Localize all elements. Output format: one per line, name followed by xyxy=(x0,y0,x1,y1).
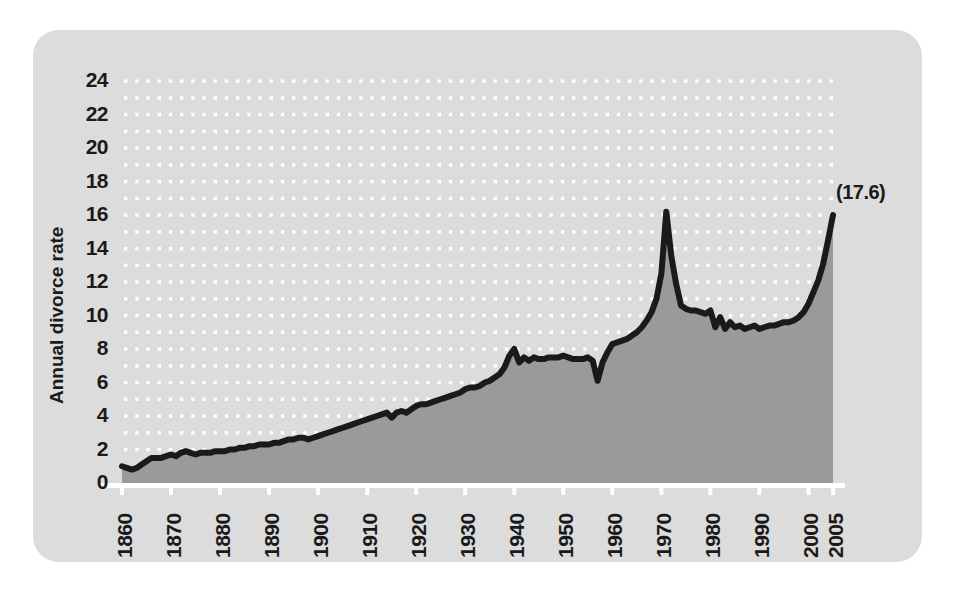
y-tick-10: 10 xyxy=(66,303,108,327)
y-tick-22: 22 xyxy=(66,102,108,126)
y-tick-8: 8 xyxy=(66,336,108,360)
x-tick-1980: 1980 xyxy=(701,513,725,558)
y-tick-2: 2 xyxy=(66,437,108,461)
x-tick-1990: 1990 xyxy=(750,513,774,558)
y-tick-24: 24 xyxy=(66,68,108,92)
y-axis-title: Annual divorce rate xyxy=(46,227,68,404)
x-tick-1930: 1930 xyxy=(456,513,480,558)
x-tick-1960: 1960 xyxy=(603,513,627,558)
chart-figure: 024681012141618202224 186018701880189019… xyxy=(0,0,961,591)
x-tick-1940: 1940 xyxy=(505,513,529,558)
x-tick-1900: 1900 xyxy=(309,513,333,558)
x-tick-1870: 1870 xyxy=(162,513,186,558)
x-tick-1920: 1920 xyxy=(407,513,431,558)
y-tick-14: 14 xyxy=(66,236,108,260)
endpoint-value-annotation: (17.6) xyxy=(836,181,885,204)
y-tick-6: 6 xyxy=(66,370,108,394)
chart-panel-background xyxy=(33,30,922,562)
y-tick-20: 20 xyxy=(66,135,108,159)
x-tick-1950: 1950 xyxy=(554,513,578,558)
y-tick-12: 12 xyxy=(66,269,108,293)
x-tick-2005: 2005 xyxy=(824,513,848,558)
x-tick-1910: 1910 xyxy=(358,513,382,558)
x-tick-1860: 1860 xyxy=(113,513,137,558)
x-tick-1970: 1970 xyxy=(652,513,676,558)
y-tick-16: 16 xyxy=(66,202,108,226)
x-tick-2000: 2000 xyxy=(799,513,823,558)
x-tick-1880: 1880 xyxy=(211,513,235,558)
y-tick-18: 18 xyxy=(66,169,108,193)
y-tick-4: 4 xyxy=(66,403,108,427)
y-tick-0: 0 xyxy=(66,470,108,494)
x-tick-1890: 1890 xyxy=(260,513,284,558)
